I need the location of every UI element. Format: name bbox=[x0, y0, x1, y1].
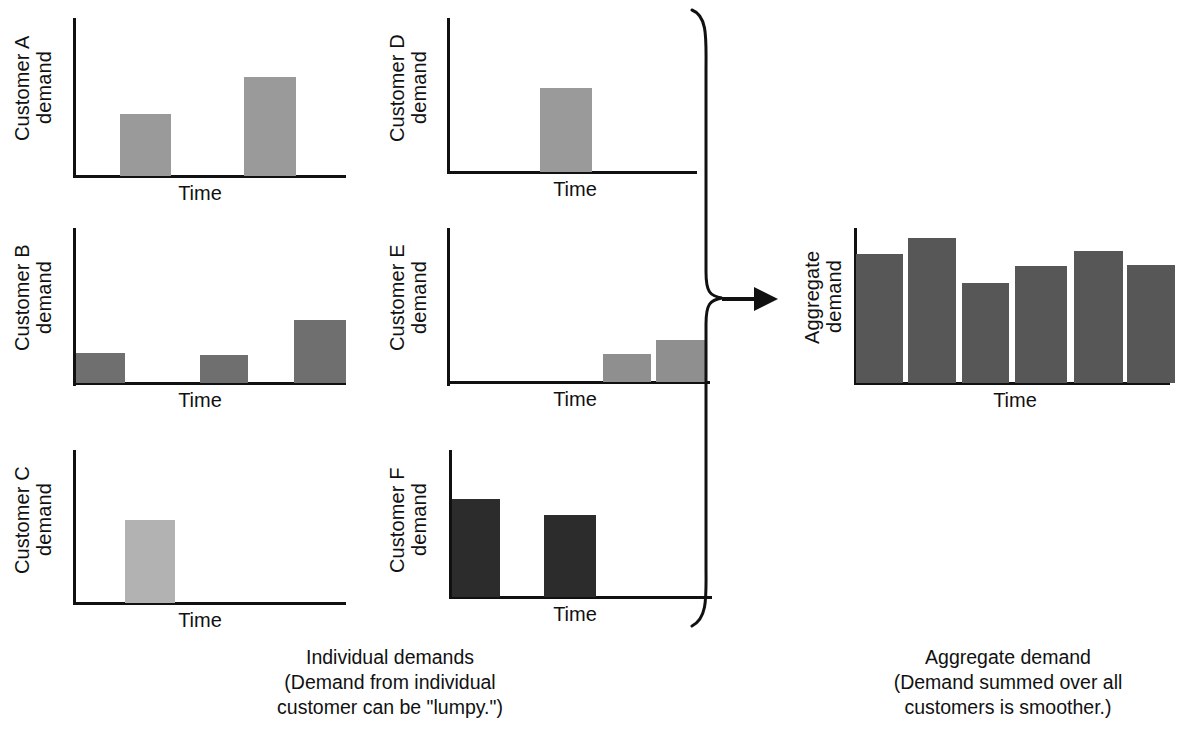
panel-customer-e-x-label: Time bbox=[515, 388, 635, 411]
panel-customer-a-y-label: Customer A demand bbox=[12, 8, 60, 168]
panel-customer-d-x-label: Time bbox=[515, 178, 635, 201]
panel-customer-d-y-axis bbox=[447, 18, 450, 174]
caption-aggregate-demand: Aggregate demand (Demand summed over all… bbox=[838, 645, 1178, 720]
panel-aggregate-x-label: Time bbox=[955, 389, 1075, 412]
panel-aggregate-y-label: Aggregate demand bbox=[802, 217, 850, 377]
panel-customer-c-x-label: Time bbox=[140, 609, 260, 632]
panel-aggregate-bar-1 bbox=[856, 254, 903, 383]
panel-customer-e-y-label: Customer E demand bbox=[387, 218, 435, 378]
panel-customer-c-x-axis bbox=[73, 602, 346, 605]
panel-customer-f-x-label: Time bbox=[515, 603, 635, 626]
panel-customer-a-x-axis bbox=[73, 175, 346, 178]
panel-customer-d-bar-1 bbox=[540, 88, 592, 172]
figure-canvas: Customer A demand Time Customer B demand… bbox=[0, 0, 1180, 747]
panel-aggregate-bar-2 bbox=[908, 238, 956, 383]
panel-customer-b-bar-2 bbox=[200, 355, 248, 383]
panel-aggregate-bar-6 bbox=[1127, 265, 1175, 383]
panel-customer-f: Customer F demand Time bbox=[375, 428, 705, 628]
panel-customer-e: Customer E demand Time bbox=[375, 208, 695, 408]
panel-customer-a-bar-1 bbox=[120, 114, 171, 176]
panel-customer-e-bar-1 bbox=[603, 354, 651, 382]
panel-aggregate: Aggregate demand Time bbox=[790, 195, 1180, 425]
flow-arrow-icon bbox=[722, 279, 786, 319]
panel-customer-b: Customer B demand Time bbox=[0, 208, 360, 408]
caption-individual-demands: Individual demands (Demand from individu… bbox=[190, 645, 590, 720]
panel-customer-b-bar-3 bbox=[294, 320, 346, 383]
panel-customer-a-y-axis bbox=[73, 18, 76, 178]
panel-customer-c-y-label: Customer C demand bbox=[12, 440, 60, 600]
panel-customer-b-bar-1 bbox=[76, 353, 125, 383]
panel-customer-c-bar-1 bbox=[125, 520, 175, 603]
panel-aggregate-bar-3 bbox=[962, 283, 1009, 383]
panel-customer-c-y-axis bbox=[73, 450, 76, 605]
panel-customer-b-x-label: Time bbox=[140, 389, 260, 412]
panel-customer-a-bar-2 bbox=[244, 77, 296, 176]
panel-aggregate-bar-4 bbox=[1015, 266, 1067, 383]
grouping-brace bbox=[680, 0, 740, 640]
panel-customer-a-x-label: Time bbox=[140, 182, 260, 205]
panel-customer-a: Customer A demand Time bbox=[0, 0, 360, 200]
panel-aggregate-bar-5 bbox=[1074, 251, 1123, 383]
panel-customer-d-y-label: Customer D demand bbox=[387, 8, 435, 168]
panel-customer-c: Customer C demand Time bbox=[0, 428, 360, 628]
panel-customer-f-bar-1 bbox=[452, 499, 500, 597]
panel-customer-b-y-label: Customer B demand bbox=[12, 218, 60, 378]
panel-customer-d: Customer D demand Time bbox=[375, 0, 665, 200]
panel-customer-f-bar-2 bbox=[544, 515, 596, 597]
panel-customer-e-y-axis bbox=[447, 228, 450, 386]
panel-customer-f-y-label: Customer F demand bbox=[387, 440, 435, 600]
